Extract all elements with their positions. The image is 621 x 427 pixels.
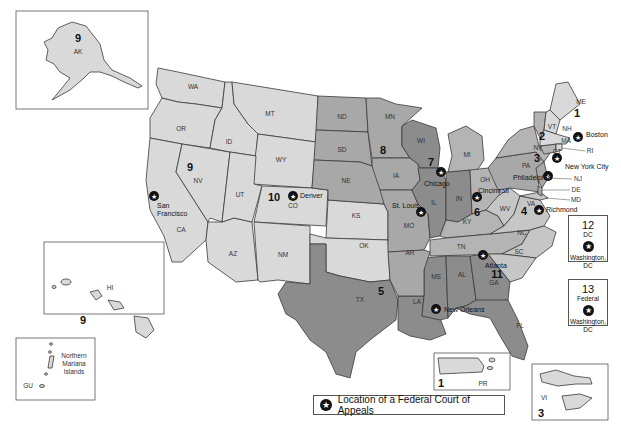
state-nh-label: NH bbox=[562, 125, 572, 132]
city-atlanta: Atlanta bbox=[485, 262, 507, 269]
state-nc-label: NC bbox=[517, 229, 527, 236]
state-vt-label: VT bbox=[548, 123, 556, 130]
circuit-3-label: 3 bbox=[534, 152, 540, 164]
hawaii-inset bbox=[44, 242, 164, 314]
state-la-label: LA bbox=[413, 298, 422, 305]
state-mo-label: MO bbox=[404, 222, 414, 229]
state-ky-label: KY bbox=[463, 218, 472, 225]
state-id-label: ID bbox=[226, 138, 233, 145]
legend: ★ Location of a Federal Court of Appeals bbox=[313, 395, 505, 415]
star-circle-icon: ★ bbox=[583, 241, 594, 252]
star-circle-icon: ★ bbox=[436, 167, 446, 177]
state-ar-label: AR bbox=[405, 249, 414, 256]
pr-island bbox=[487, 367, 493, 370]
svg-text:★: ★ bbox=[536, 207, 542, 214]
dc-city-l2: DC bbox=[569, 262, 607, 270]
city-st-louis: St. Louis bbox=[392, 202, 420, 209]
state-nv-label: NV bbox=[193, 177, 203, 184]
state-az-label: AZ bbox=[229, 250, 237, 257]
state-ms-label: MS bbox=[431, 273, 441, 280]
star-circle-icon: ★ bbox=[288, 191, 298, 201]
federal-city-l1: Washington, bbox=[569, 318, 607, 326]
state-mi bbox=[448, 126, 484, 172]
state-ak-label: AK bbox=[74, 48, 83, 55]
state-me-label: ME bbox=[576, 98, 586, 105]
state-al-label: AL bbox=[458, 271, 466, 278]
state-de bbox=[538, 186, 542, 196]
state-or-label: OR bbox=[176, 125, 186, 132]
circuit-1-label: 1 bbox=[574, 107, 580, 119]
state-va-label: VA bbox=[527, 200, 536, 207]
territory-pr bbox=[438, 358, 484, 374]
circuit-10-label: 10 bbox=[268, 191, 280, 203]
city-boston: Boston bbox=[586, 131, 608, 138]
state-ca-label: CA bbox=[176, 226, 186, 233]
circuit-1-pr-label: 1 bbox=[438, 377, 444, 389]
circuit-12-number: 12 bbox=[569, 219, 607, 231]
state-wy-label: WY bbox=[276, 156, 287, 163]
pr-island bbox=[489, 358, 495, 362]
federal-city-l2: DC bbox=[569, 326, 607, 334]
state-oh-label: OH bbox=[480, 176, 490, 183]
federal-circuit-box: 13 Federal ★ Washington, DC bbox=[568, 279, 608, 326]
state-ok-label: OK bbox=[359, 242, 369, 249]
city-denver: Denver bbox=[300, 192, 323, 199]
circuit-2-label: 2 bbox=[539, 130, 545, 142]
circuit-9-hi-label: 9 bbox=[80, 314, 86, 326]
state-sd-label: SD bbox=[337, 146, 346, 153]
city-richmond: Richmond bbox=[546, 206, 578, 213]
svg-text:★: ★ bbox=[480, 252, 486, 259]
nmi-label-l1: Northern bbox=[61, 352, 87, 359]
state-ga-label: GA bbox=[489, 279, 499, 286]
state-nd-label: ND bbox=[337, 113, 347, 120]
svg-text:★: ★ bbox=[151, 193, 157, 200]
dc-city-l1: Washington, bbox=[569, 254, 607, 262]
svg-text:★: ★ bbox=[554, 155, 560, 162]
state-hi-label: HI bbox=[107, 284, 114, 291]
dc-label: DC bbox=[569, 231, 607, 239]
circuit-5-label: 5 bbox=[378, 285, 384, 297]
city-new-orleans: New Orleans bbox=[444, 306, 485, 313]
state-ia-label: IA bbox=[393, 172, 400, 179]
star-circle-icon: ★ bbox=[149, 191, 159, 201]
federal-label: Federal bbox=[569, 295, 607, 303]
svg-text:★: ★ bbox=[290, 193, 296, 200]
state-ut-label: UT bbox=[236, 191, 245, 198]
star-circle-icon: ★ bbox=[573, 132, 583, 142]
circuit-7-label: 7 bbox=[428, 156, 434, 168]
state-wv-label: WV bbox=[500, 205, 511, 212]
state-fl-label: FL bbox=[516, 322, 524, 329]
nmi-label-l2: Mariana bbox=[62, 360, 86, 367]
city-new-york: New York City bbox=[565, 163, 609, 171]
state-md-label: MD bbox=[571, 196, 581, 203]
state-in-label: IN bbox=[456, 195, 463, 202]
state-wi-label: WI bbox=[417, 137, 425, 144]
state-ne-label: NE bbox=[341, 177, 351, 184]
legend-label: Location of a Federal Court of Appeals bbox=[338, 394, 504, 416]
state-ri-label: RI bbox=[587, 147, 594, 154]
dc-circuit-box: 12 DC ★ Washington, DC bbox=[568, 215, 608, 262]
us-circuit-map: 9 AK bbox=[0, 0, 621, 427]
state-ar bbox=[388, 250, 430, 296]
city-philadelphia: Philadelphia bbox=[513, 174, 551, 182]
star-circle-icon: ★ bbox=[534, 205, 544, 215]
state-tn-label: TN bbox=[457, 243, 466, 250]
circuit-13-number: 13 bbox=[569, 283, 607, 295]
circuit-6-label: 6 bbox=[474, 206, 480, 218]
state-mt-label: MT bbox=[265, 110, 274, 117]
state-il-label: IL bbox=[431, 199, 437, 206]
state-de-label: DE bbox=[571, 186, 581, 193]
state-co-label: CO bbox=[288, 202, 298, 209]
circuit-9-ak-label: 9 bbox=[75, 32, 81, 44]
svg-text:★: ★ bbox=[418, 209, 424, 216]
star-circle-icon: ★ bbox=[431, 304, 441, 314]
circuit-3-vi-label: 3 bbox=[538, 407, 544, 419]
nmi-label-l3: Islands bbox=[64, 368, 85, 375]
state-mi-label: MI bbox=[463, 151, 470, 158]
circuit-9-label: 9 bbox=[187, 161, 193, 173]
territory-vi-label: VI bbox=[541, 394, 547, 401]
city-san-francisco-l2: Francisco bbox=[157, 210, 187, 217]
star-circle-icon: ★ bbox=[583, 305, 594, 316]
state-mn-label: MN bbox=[385, 113, 395, 120]
state-ma-label: MA bbox=[561, 137, 571, 144]
